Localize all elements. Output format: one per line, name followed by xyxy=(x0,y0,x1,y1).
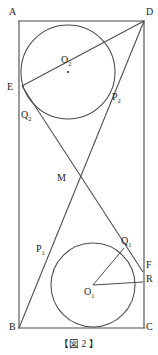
figure-canvas xyxy=(0,0,158,355)
point-label-E: E xyxy=(7,82,13,92)
point-label-Q1: Q1 xyxy=(121,236,131,249)
point-label-R: R xyxy=(146,274,153,284)
radius-o1-to-q1 xyxy=(93,248,124,285)
point-label-M: M xyxy=(57,173,66,183)
figure-caption: 【図 2 】 xyxy=(0,336,158,350)
point-label-Q2: Q2 xyxy=(21,110,31,123)
point-label-C: C xyxy=(146,322,153,332)
point-label-P2: P2 xyxy=(112,92,121,105)
point-label-P1: P1 xyxy=(36,244,45,257)
tangent-line-d-q2 xyxy=(22,21,144,86)
center-label-O2: O2 xyxy=(61,55,71,68)
point-label-A: A xyxy=(9,7,16,17)
center-label-O1: O1 xyxy=(84,287,94,300)
point-label-F: F xyxy=(146,260,152,270)
point-label-B: B xyxy=(9,322,16,332)
geometry-figure: A D B C E O2 P2 Q2 M P1 Q1 F R O1 【図 2 】 xyxy=(0,0,158,355)
circle-o2-group xyxy=(21,25,115,119)
tangent-line-b-p1-p2-d xyxy=(19,21,144,328)
center-dot-o2 xyxy=(67,71,69,73)
point-label-D: D xyxy=(146,7,153,17)
